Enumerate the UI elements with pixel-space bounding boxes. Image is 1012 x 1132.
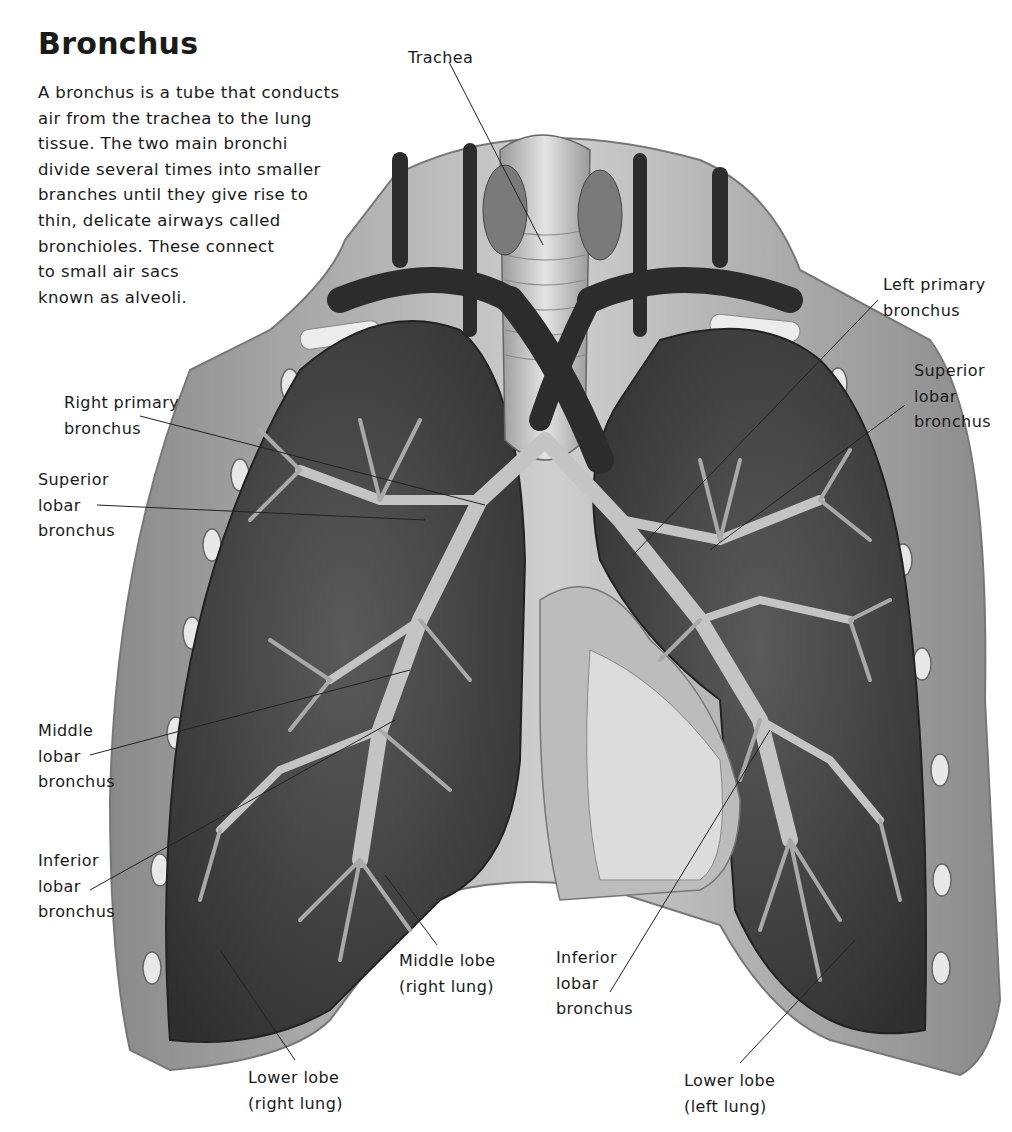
leader-lines: [0, 0, 1012, 1132]
label-trachea: Trachea: [408, 45, 473, 71]
label-right-inferior-lobar-bronchus: Inferior lobar bronchus: [38, 848, 115, 925]
label-middle-lobar-bronchus: Middle lobar bronchus: [38, 718, 115, 795]
label-right-primary-bronchus: Right primary bronchus: [64, 390, 179, 441]
label-middle-lobe-right: Middle lobe (right lung): [399, 948, 496, 999]
label-left-superior-lobar-bronchus: Superior lobar bronchus: [914, 358, 991, 435]
label-left-primary-bronchus: Left primary bronchus: [883, 272, 986, 323]
label-lower-lobe-left: Lower lobe (left lung): [684, 1068, 775, 1119]
label-lower-lobe-right: Lower lobe (right lung): [248, 1065, 343, 1116]
label-right-superior-lobar-bronchus: Superior lobar bronchus: [38, 467, 115, 544]
label-left-inferior-lobar-bronchus: Inferior lobar bronchus: [556, 945, 633, 1022]
